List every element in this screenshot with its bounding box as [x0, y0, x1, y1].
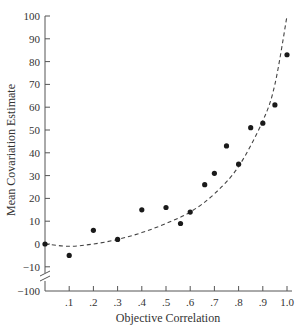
x-tick-label: .9: [259, 296, 268, 308]
x-tick-label: .1: [65, 296, 73, 308]
data-point: [236, 162, 241, 167]
scatter-chart: 1009080706050403020100−10−100 .1.2.3.4.5…: [0, 0, 302, 328]
y-tick-label: 50: [29, 124, 41, 136]
y-tick-label: 10: [29, 215, 41, 227]
data-point: [115, 237, 120, 242]
y-tick-label: 0: [35, 238, 41, 250]
y-tick-label: 70: [29, 78, 41, 90]
data-point: [202, 182, 207, 187]
data-point: [178, 221, 183, 226]
x-tick-label: .8: [234, 296, 243, 308]
data-point: [224, 143, 229, 148]
data-point: [163, 205, 168, 210]
x-tick-label: .3: [113, 296, 122, 308]
y-tick-label: −10: [23, 261, 41, 273]
data-points: [42, 52, 289, 258]
data-point: [212, 171, 217, 176]
y-tick-label: 80: [29, 56, 41, 68]
y-tick-label-break: −100: [17, 285, 40, 297]
y-tick-label: 90: [29, 33, 41, 45]
x-ticks: .1.2.3.4.5.6.7.8.91.0: [65, 286, 294, 308]
data-point: [67, 253, 72, 258]
data-point: [248, 125, 253, 130]
data-point: [139, 207, 144, 212]
data-point: [272, 102, 277, 107]
x-tick-label: .7: [210, 296, 219, 308]
y-tick-label: 40: [29, 147, 41, 159]
x-axis-label: Objective Correlation: [116, 311, 220, 325]
data-point: [260, 121, 265, 126]
fitted-curve: [45, 16, 287, 246]
x-tick-label: .5: [162, 296, 171, 308]
x-tick-label: .4: [138, 296, 147, 308]
x-tick-label: .6: [186, 296, 195, 308]
x-tick-label: .2: [89, 296, 97, 308]
data-point: [42, 241, 47, 246]
y-tick-label: 100: [24, 10, 41, 22]
data-point: [91, 228, 96, 233]
y-tick-label: 30: [29, 170, 41, 182]
x-tick-label: 1.0: [280, 296, 294, 308]
data-point: [188, 209, 193, 214]
axes: [40, 16, 292, 291]
y-tick-label: 60: [29, 101, 41, 113]
y-axis-label: Mean Covariation Estimate: [4, 84, 18, 216]
data-point: [284, 52, 289, 57]
y-tick-label: 20: [29, 192, 41, 204]
